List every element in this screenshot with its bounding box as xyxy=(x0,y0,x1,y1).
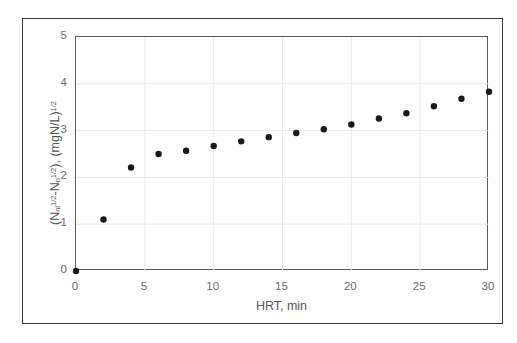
x-tick-label: 10 xyxy=(193,281,233,293)
data-point xyxy=(155,151,161,157)
data-point xyxy=(376,115,382,121)
data-point xyxy=(458,96,464,102)
y-axis-label-wrapper: (Nni1/2-Nn1/2), (mgN/L)1/2 xyxy=(45,48,65,278)
data-points-layer xyxy=(76,37,489,271)
data-point xyxy=(183,148,189,154)
x-tick-label: 0 xyxy=(55,281,95,293)
x-tick-label: 5 xyxy=(124,281,164,293)
chart-figure: 012345 051015202530 HRT, min (Nni1/2-Nn1… xyxy=(0,0,517,343)
y-axis-label: (Nni1/2-Nn1/2), (mgN/L)1/2 xyxy=(48,101,62,225)
data-point xyxy=(238,138,244,144)
data-point xyxy=(403,110,409,116)
x-tick-label: 30 xyxy=(468,281,508,293)
data-point xyxy=(486,89,492,95)
data-point xyxy=(321,126,327,132)
y-tick-label: 5 xyxy=(37,30,67,42)
data-point xyxy=(348,121,354,127)
x-tick-label: 15 xyxy=(262,281,302,293)
data-point xyxy=(293,130,299,136)
x-tick-label: 25 xyxy=(399,281,439,293)
data-point xyxy=(100,216,106,222)
data-point xyxy=(266,134,272,140)
plot-area xyxy=(75,36,488,270)
x-tick-label: 20 xyxy=(330,281,370,293)
data-point xyxy=(431,103,437,109)
data-point xyxy=(128,164,134,170)
data-point xyxy=(73,268,79,274)
x-axis-label: HRT, min xyxy=(75,299,488,313)
data-point xyxy=(210,143,216,149)
